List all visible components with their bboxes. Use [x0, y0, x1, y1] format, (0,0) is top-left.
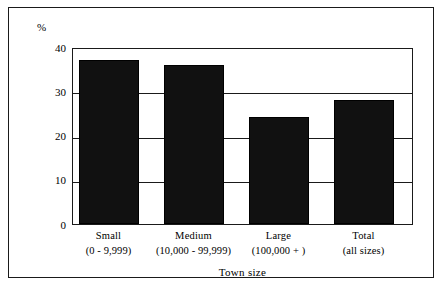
bar-medium — [164, 65, 224, 224]
bar-small — [79, 60, 139, 224]
figure-outer-frame: % 40 30 20 10 0 Small (0 - 9,999) Medium — [8, 7, 434, 278]
x-tick-large-name: Large — [236, 229, 321, 244]
bar-large — [249, 117, 309, 224]
y-tick-label-0: 0 — [40, 220, 66, 231]
x-tick-medium-name: Medium — [151, 229, 236, 244]
y-tick-label-30: 30 — [40, 87, 66, 98]
x-tick-small: Small (0 - 9,999) — [66, 229, 151, 258]
x-tick-medium-range: (10,000 - 99,999) — [151, 244, 236, 259]
x-axis-title: Town size — [72, 266, 413, 278]
bar-total — [334, 100, 394, 224]
x-tick-small-range: (0 - 9,999) — [66, 244, 151, 259]
x-tick-total-range: (all sizes) — [321, 244, 406, 259]
y-axis-tick-labels: 40 30 20 10 0 — [37, 48, 66, 225]
x-tick-total-name: Total — [321, 229, 406, 244]
y-tick-label-10: 10 — [40, 175, 66, 186]
y-tick-label-40: 40 — [40, 43, 66, 54]
y-tick-label-20: 20 — [40, 131, 66, 142]
x-axis-tick-labels: Small (0 - 9,999) Medium (10,000 - 99,99… — [72, 229, 413, 265]
y-axis-unit-label: % — [37, 22, 46, 33]
x-tick-total: Total (all sizes) — [321, 229, 406, 258]
x-tick-large-range: (100,000 + ) — [236, 244, 321, 259]
x-tick-large: Large (100,000 + ) — [236, 229, 321, 258]
x-tick-small-name: Small — [66, 229, 151, 244]
figure-container: % 40 30 20 10 0 Small (0 - 9,999) Medium — [0, 0, 446, 294]
plot-area — [72, 48, 413, 225]
x-tick-medium: Medium (10,000 - 99,999) — [151, 229, 236, 258]
